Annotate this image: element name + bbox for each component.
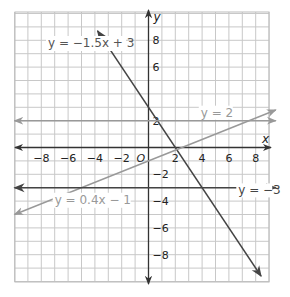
x-tick-label: −6 <box>60 152 76 165</box>
x-tick-label: 6 <box>225 152 232 165</box>
label-0-4x-minus-1: y = 0.4x − 1 <box>55 193 131 207</box>
x-tick-label: 4 <box>199 152 206 165</box>
x-tick-label: −8 <box>33 152 49 165</box>
y-tick-label: −4 <box>153 195 169 208</box>
y-axis-label: y <box>153 10 162 24</box>
x-tick-label: 8 <box>252 152 259 165</box>
y-tick-label: −6 <box>153 222 169 235</box>
y-tick-label: −8 <box>153 249 169 262</box>
label-y-equals-2: y = 2 <box>201 106 233 120</box>
coordinate-plane: −8−6−4−22468862−2−4−6−8Oxyy = −1.5x + 3y… <box>0 0 290 297</box>
x-tick-label: −2 <box>114 152 130 165</box>
x-tick-label: 2 <box>172 152 179 165</box>
y-tick-label: 6 <box>153 61 160 74</box>
label-y-equals-neg-3: y = −3 <box>238 183 280 197</box>
y-tick-label: −2 <box>153 168 169 181</box>
x-tick-label: −4 <box>87 152 103 165</box>
y-tick-label: 8 <box>153 34 160 47</box>
label-neg-1-5x-plus-3: y = −1.5x + 3 <box>48 36 134 50</box>
x-axis-label: x <box>261 132 270 146</box>
